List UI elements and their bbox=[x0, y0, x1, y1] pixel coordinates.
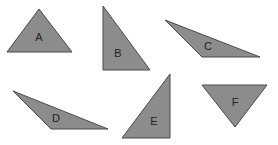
diagram-canvas: ABCDEF bbox=[0, 0, 278, 145]
triangle-f: F bbox=[202, 85, 267, 127]
triangle-b: B bbox=[103, 6, 150, 70]
triangle-label: C bbox=[204, 40, 212, 52]
triangle-label: E bbox=[150, 115, 157, 127]
triangle-d: D bbox=[13, 91, 108, 129]
triangle-e: E bbox=[122, 74, 170, 138]
triangle-c: C bbox=[165, 20, 260, 57]
triangle-a: A bbox=[7, 9, 72, 52]
triangle-shape bbox=[165, 20, 260, 57]
triangle-label: D bbox=[52, 112, 60, 124]
triangle-shape bbox=[103, 6, 150, 70]
triangle-shape bbox=[122, 74, 170, 138]
triangle-diagram: ABCDEF bbox=[0, 0, 278, 145]
triangle-label: B bbox=[114, 47, 121, 59]
triangle-shape bbox=[13, 91, 108, 129]
triangle-label: A bbox=[35, 31, 43, 43]
triangle-label: F bbox=[232, 96, 239, 108]
